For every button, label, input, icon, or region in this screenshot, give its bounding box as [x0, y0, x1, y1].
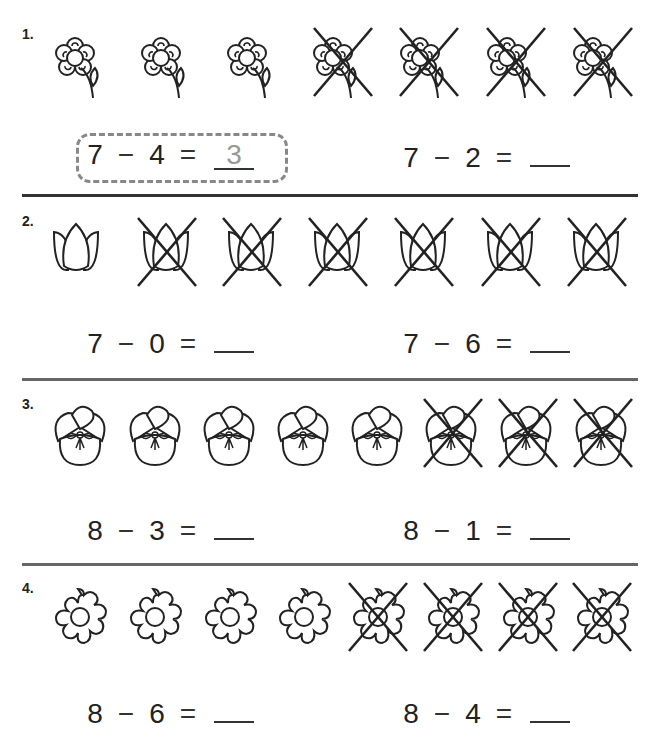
flower-icon [228, 38, 270, 98]
equation: 8−6= [84, 695, 254, 730]
minuend: 8 [400, 698, 422, 730]
daisy-crossed-icon [499, 583, 557, 651]
flower-crossed-icon [574, 28, 632, 98]
answer-blank[interactable] [214, 512, 254, 540]
answer-blank[interactable] [530, 512, 570, 540]
subtrahend: 1 [462, 515, 484, 547]
minus-sign: − [422, 142, 462, 174]
tulip-icon [54, 224, 98, 270]
daisy-crossed-icon [349, 583, 407, 651]
tulip-crossed-icon [223, 218, 281, 286]
equals-sign: = [484, 698, 524, 730]
picture-row [0, 393, 661, 493]
daisy-icon [56, 589, 106, 643]
minuend: 7 [84, 139, 106, 171]
problem-2: 2. 7−0= 7−6= [0, 197, 661, 382]
answer-blank[interactable] [214, 325, 254, 353]
minus-sign: − [106, 515, 146, 547]
pansy-crossed-icon [424, 399, 482, 467]
minus-sign: − [422, 328, 462, 360]
picture-row [0, 20, 661, 120]
pansy-icon [279, 407, 328, 465]
equation: 7−6= [400, 325, 570, 360]
equals-sign: = [168, 698, 208, 730]
pansy-icon [131, 407, 180, 465]
minus-sign: − [106, 698, 146, 730]
minuend: 8 [84, 698, 106, 730]
pansy-crossed-icon [499, 399, 557, 467]
answer-blank[interactable] [214, 695, 254, 723]
minuend: 8 [84, 515, 106, 547]
problem-3: 3. 8−3= 8−1= [0, 381, 661, 565]
equation: 8−4= [400, 695, 570, 730]
subtrahend: 6 [462, 328, 484, 360]
equals-sign: = [168, 515, 208, 547]
tulip-crossed-icon [482, 218, 540, 286]
minuend: 8 [400, 515, 422, 547]
picture-row [0, 577, 661, 677]
answer-blank[interactable] [530, 695, 570, 723]
equals-sign: = [484, 142, 524, 174]
minuend: 7 [400, 328, 422, 360]
minus-sign: − [106, 139, 146, 171]
problem-1: 1. 7−4=3 7−2= [0, 0, 661, 195]
picture-row [0, 212, 661, 312]
subtrahend: 0 [146, 328, 168, 360]
tulip-crossed-icon [395, 218, 453, 286]
daisy-crossed-icon [573, 583, 631, 651]
pansy-icon [353, 407, 402, 465]
minus-sign: − [106, 328, 146, 360]
tulip-crossed-icon [138, 218, 196, 286]
minus-sign: − [422, 515, 462, 547]
problem-4: 4. 8−6= 8−4= [0, 565, 661, 749]
daisy-crossed-icon [424, 583, 482, 651]
daisy-icon [280, 589, 330, 643]
answer-blank[interactable] [530, 325, 570, 353]
subtrahend: 4 [462, 698, 484, 730]
subtrahend: 3 [146, 515, 168, 547]
answer-blank[interactable]: 3 [214, 142, 254, 170]
answer-blank[interactable] [530, 139, 570, 167]
flower-crossed-icon [314, 28, 372, 98]
subtrahend: 4 [146, 139, 168, 171]
pansy-icon [56, 407, 105, 465]
equation: 8−3= [84, 512, 254, 547]
flower-icon [142, 38, 184, 98]
minus-sign: − [422, 698, 462, 730]
equals-sign: = [168, 328, 208, 360]
pansy-icon [205, 407, 254, 465]
equals-sign: = [484, 328, 524, 360]
pansy-crossed-icon [574, 399, 632, 467]
equals-sign: = [168, 139, 208, 171]
daisy-icon [131, 589, 181, 643]
equation-example: 7−4=3 [84, 139, 254, 171]
equation: 8−1= [400, 512, 570, 547]
flower-icon [56, 38, 98, 98]
equals-sign: = [484, 515, 524, 547]
subtrahend: 6 [146, 698, 168, 730]
subtrahend: 2 [462, 142, 484, 174]
flower-crossed-icon [487, 28, 545, 98]
minuend: 7 [400, 142, 422, 174]
tulip-crossed-icon [309, 218, 367, 286]
tulip-crossed-icon [568, 218, 626, 286]
minuend: 7 [84, 328, 106, 360]
equation: 7−0= [84, 325, 254, 360]
equation: 7−2= [400, 139, 570, 174]
daisy-icon [206, 589, 256, 643]
flower-crossed-icon [400, 28, 458, 98]
